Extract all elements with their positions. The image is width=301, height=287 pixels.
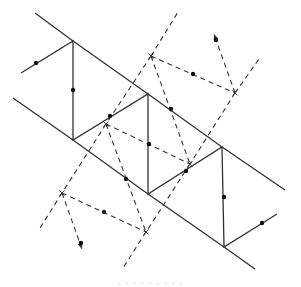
cell-a-down-dashed-line xyxy=(106,56,151,124)
site-dot xyxy=(169,107,173,111)
site-dot xyxy=(108,114,112,118)
lower-boundary-line xyxy=(13,98,255,269)
site-dot xyxy=(34,61,38,65)
cross-mark-icon xyxy=(144,230,149,235)
site-dot xyxy=(71,88,75,92)
site-dot xyxy=(102,210,106,214)
cell-a-up-dashed-line xyxy=(151,12,178,56)
diagram-canvas xyxy=(0,0,301,287)
site-dot xyxy=(79,241,83,245)
cross-mark-icon xyxy=(188,162,193,167)
cell-f-down-dashed-line xyxy=(123,232,146,268)
cross-mark-icon xyxy=(233,91,238,96)
cell-b-up-dashed-line xyxy=(235,59,259,93)
site-dot xyxy=(222,195,226,199)
cross-mark-icon xyxy=(60,191,65,196)
figure-caption: · · · · · · · · · xyxy=(0,279,301,287)
vertex-dots xyxy=(34,38,264,245)
site-dot xyxy=(214,38,218,42)
cross-mark-icon xyxy=(104,122,109,127)
site-dot xyxy=(191,72,195,76)
site-dot xyxy=(260,221,264,225)
cell-b-arrow-dashed-line xyxy=(214,34,235,93)
cell-e-left-down-dashed-line xyxy=(40,193,62,228)
cross-mark-icon xyxy=(149,54,154,59)
solid-edges xyxy=(13,13,285,269)
site-dot xyxy=(147,142,151,146)
site-dot xyxy=(124,177,128,181)
site-dot xyxy=(184,169,188,173)
